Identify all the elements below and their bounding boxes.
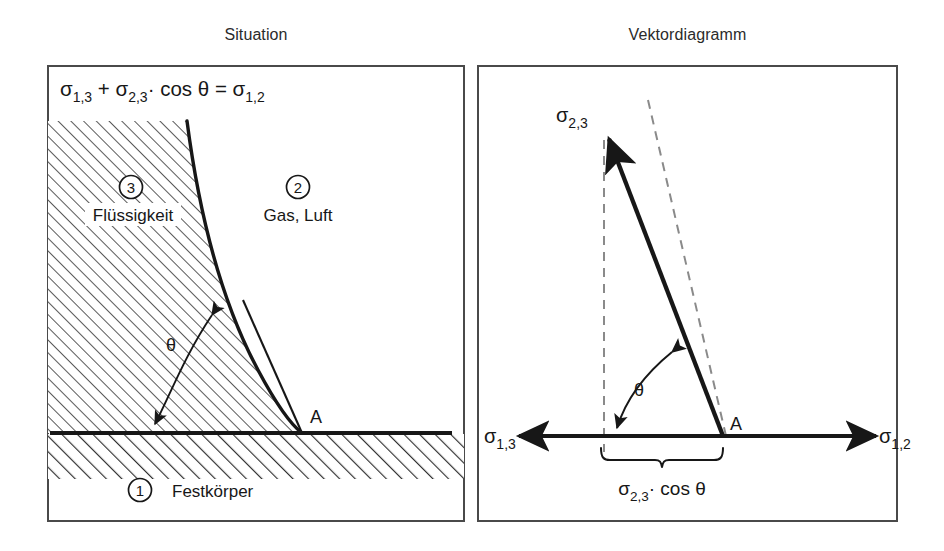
- region-3-number: 3: [127, 179, 135, 196]
- label-sigma-1-2-sym: σ: [879, 425, 892, 447]
- contact-point-label-right: A: [730, 414, 742, 434]
- eq-sigma12-sub: 1,2: [245, 89, 265, 105]
- diagram-svg: σ1,3 + σ2,3· cos θ = σ1,2 3 Flüssigkeit …: [0, 0, 944, 551]
- theta-label-right: θ: [634, 380, 644, 400]
- eq-cos: cos: [160, 77, 192, 100]
- panel-vektordiagramm: σ2,3 σ1,3 σ1,2 θ A σ2,3· cos θ: [478, 66, 911, 521]
- label-sigma-1-2-sub: 1,2: [891, 436, 911, 452]
- region-2-number: 2: [294, 179, 302, 196]
- theta-label-left: θ: [166, 335, 176, 355]
- panel-title-situation: Situation: [47, 26, 465, 44]
- region-1-label: Festkörper: [172, 482, 254, 501]
- brace-cos: cos: [660, 478, 690, 499]
- brace-theta: θ: [695, 478, 706, 499]
- solid-region-hatch: [48, 434, 464, 479]
- brace-sym: σ: [618, 478, 630, 499]
- eq-dot: ·: [148, 77, 155, 100]
- region-1-number: 1: [136, 482, 144, 499]
- contact-point-label-left: A: [310, 407, 322, 427]
- label-sigma-2-3-sym: σ: [556, 104, 569, 126]
- eq-sigma12-sym: σ: [233, 77, 246, 100]
- panel-situation: σ1,3 + σ2,3· cos θ = σ1,2 3 Flüssigkeit …: [48, 66, 464, 521]
- label-sigma-1-3-sym: σ: [484, 425, 497, 447]
- eq-sigma13-sub: 1,3: [73, 89, 93, 105]
- region-1-marker: 1 Festkörper: [129, 479, 254, 502]
- region-3-label: Flüssigkeit: [93, 206, 174, 225]
- eq-sigma23-sub: 2,3: [128, 89, 148, 105]
- eq-sigma13-sym: σ: [60, 77, 73, 100]
- eq-sigma23-sym: σ: [116, 77, 129, 100]
- eq-plus: +: [98, 77, 110, 100]
- figure-canvas: Situation Vektordiagramm: [0, 0, 944, 551]
- eq-theta: θ: [198, 77, 209, 100]
- eq-equals: =: [215, 77, 227, 100]
- panel-title-vektordiagramm: Vektordiagramm: [478, 26, 897, 44]
- label-sigma-2-3-sub: 2,3: [568, 115, 588, 131]
- panel-border-right: [478, 66, 897, 521]
- brace-sub: 2,3: [630, 489, 649, 504]
- region-2-label: Gas, Luft: [264, 206, 333, 225]
- label-sigma-1-3-sub: 1,3: [496, 436, 516, 452]
